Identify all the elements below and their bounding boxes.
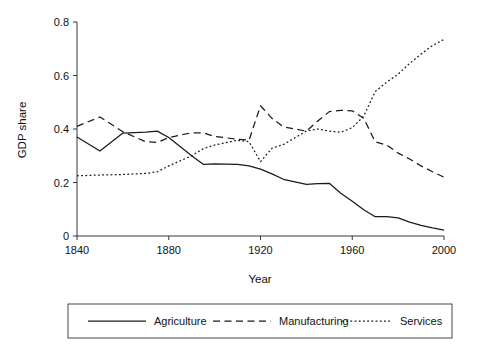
series-line-services — [77, 39, 444, 175]
data-series-group — [77, 39, 444, 230]
chart-legend: AgricultureManufacturingServices — [68, 304, 452, 338]
y-axis-title: GDP share — [16, 102, 28, 159]
x-tick-label: 1920 — [248, 244, 272, 256]
y-tick-label: 0.8 — [54, 16, 69, 28]
legend-label-agriculture: Agriculture — [154, 315, 207, 327]
x-axis-title: Year — [248, 273, 271, 285]
y-tick-label: 0.2 — [54, 177, 69, 189]
y-axis-ticks: 00.20.40.60.8 — [54, 16, 77, 242]
legend-label-manufacturing: Manufacturing — [279, 315, 349, 327]
series-line-manufacturing — [77, 106, 444, 177]
axes-group — [77, 22, 444, 236]
y-tick-label: 0.6 — [54, 70, 69, 82]
y-tick-label: 0.4 — [54, 123, 69, 135]
legend-label-services: Services — [400, 315, 443, 327]
x-tick-label: 1880 — [157, 244, 181, 256]
gdp-share-line-chart: 00.20.40.60.8 18401880192019602000 GDP s… — [0, 0, 477, 344]
y-tick-label: 0 — [63, 230, 69, 242]
chart-svg: 00.20.40.60.8 18401880192019602000 GDP s… — [0, 0, 477, 344]
x-tick-label: 2000 — [432, 244, 456, 256]
x-tick-label: 1840 — [65, 244, 89, 256]
x-tick-label: 1960 — [340, 244, 364, 256]
x-axis-ticks: 18401880192019602000 — [65, 236, 456, 256]
